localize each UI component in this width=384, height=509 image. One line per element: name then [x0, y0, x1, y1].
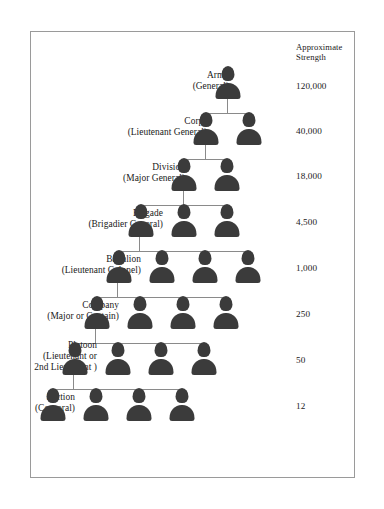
unit-figure-section: [125, 387, 153, 421]
person-head-icon: [133, 388, 146, 403]
person-head-icon: [222, 66, 235, 81]
strength-value-division: 18,000: [296, 171, 356, 181]
person-head-icon: [113, 250, 126, 265]
person-head-icon: [134, 204, 147, 219]
unit-group-division: [170, 157, 241, 191]
person-head-icon: [198, 342, 211, 357]
person-body-icon: [172, 175, 197, 191]
unit-figure-battalion: [105, 249, 133, 283]
person-head-icon: [91, 296, 104, 311]
person-head-icon: [134, 296, 147, 311]
person-head-icon: [155, 342, 168, 357]
strength-value-company: 250: [296, 309, 356, 319]
unit-figure-army: [214, 65, 242, 99]
person-body-icon: [150, 267, 175, 283]
unit-figure-company: [126, 295, 154, 329]
unit-figure-division: [170, 157, 198, 191]
person-head-icon: [112, 342, 125, 357]
strength-value-corps: 40,000: [296, 126, 356, 136]
person-head-icon: [47, 388, 60, 403]
unit-figure-platoon: [104, 341, 132, 375]
unit-figure-division: [213, 157, 241, 191]
person-body-icon: [214, 313, 239, 329]
unit-group-section: [38, 387, 197, 421]
unit-figure-platoon: [147, 341, 175, 375]
person-head-icon: [90, 388, 103, 403]
person-body-icon: [236, 267, 261, 283]
diagram-frame: Approximate Strength 120,000 40,000 18,0…: [30, 31, 355, 478]
unit-group-platoon: [60, 341, 219, 375]
person-body-icon: [84, 405, 109, 421]
person-head-icon: [243, 112, 256, 127]
unit-figure-company: [169, 295, 197, 329]
person-head-icon: [220, 204, 233, 219]
strength-value-section: 12: [296, 401, 356, 411]
person-head-icon: [221, 158, 234, 173]
unit-figure-corps: [235, 111, 263, 145]
unit-group-brigade: [126, 203, 241, 237]
unit-figure-platoon: [61, 341, 89, 375]
person-head-icon: [220, 296, 233, 311]
unit-figure-battalion: [191, 249, 219, 283]
person-body-icon: [128, 221, 153, 237]
person-head-icon: [176, 388, 189, 403]
person-body-icon: [214, 221, 239, 237]
person-head-icon: [177, 204, 190, 219]
person-head-icon: [178, 158, 191, 173]
person-body-icon: [215, 175, 240, 191]
person-head-icon: [242, 250, 255, 265]
person-head-icon: [177, 296, 190, 311]
strength-value-brigade: 4,500: [296, 217, 356, 227]
unit-figure-corps: [192, 111, 220, 145]
row-label-corps: Corps (Lieutenant General): [57, 116, 207, 138]
person-head-icon: [156, 250, 169, 265]
person-body-icon: [106, 359, 131, 375]
unit-figure-section: [82, 387, 110, 421]
unit-figure-company: [83, 295, 111, 329]
person-body-icon: [193, 267, 218, 283]
person-body-icon: [63, 359, 88, 375]
unit-group-company: [82, 295, 241, 329]
person-body-icon: [216, 83, 241, 99]
person-head-icon: [200, 112, 213, 127]
person-body-icon: [85, 313, 110, 329]
unit-figure-battalion: [234, 249, 262, 283]
unit-group-army: [214, 65, 242, 99]
unit-figure-section: [39, 387, 67, 421]
unit-figure-brigade: [170, 203, 198, 237]
strength-value-platoon: 50: [296, 355, 356, 365]
strength-value-battalion: 1,000: [296, 263, 356, 273]
person-head-icon: [69, 342, 82, 357]
unit-figure-section: [168, 387, 196, 421]
person-head-icon: [199, 250, 212, 265]
person-body-icon: [194, 129, 219, 145]
unit-figure-battalion: [148, 249, 176, 283]
person-body-icon: [171, 221, 196, 237]
unit-figure-brigade: [213, 203, 241, 237]
strength-value-army: 120,000: [296, 81, 356, 91]
person-body-icon: [128, 313, 153, 329]
person-body-icon: [149, 359, 174, 375]
unit-group-battalion: [104, 249, 263, 283]
unit-figure-brigade: [127, 203, 155, 237]
unit-figure-platoon: [190, 341, 218, 375]
person-body-icon: [127, 405, 152, 421]
person-body-icon: [237, 129, 262, 145]
person-body-icon: [192, 359, 217, 375]
person-body-icon: [170, 405, 195, 421]
hierarchy-chart: Approximate Strength 120,000 40,000 18,0…: [31, 32, 356, 479]
unit-figure-company: [212, 295, 240, 329]
person-body-icon: [41, 405, 66, 421]
person-body-icon: [171, 313, 196, 329]
row-label-division: Division (Major General): [35, 162, 185, 184]
person-body-icon: [107, 267, 132, 283]
unit-group-corps: [192, 111, 263, 145]
row-label-army: Army (General): [79, 70, 229, 92]
strength-column-header: Approximate Strength: [296, 42, 356, 62]
